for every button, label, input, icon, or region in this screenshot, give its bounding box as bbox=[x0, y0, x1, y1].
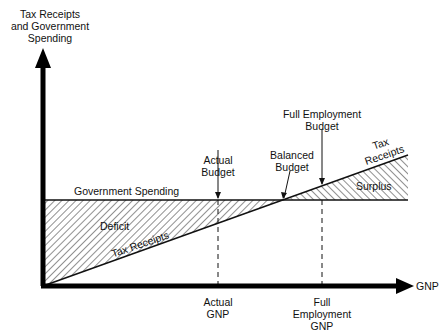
full-emp-budget-label: Full Employment Budget bbox=[280, 108, 364, 132]
actual-budget-label: Actual Budget bbox=[196, 154, 240, 178]
deficit-label: Deficit bbox=[100, 220, 129, 232]
actual-gnp-label: Actual GNP bbox=[198, 296, 238, 320]
full-emp-gnp-label: Full Employment GNP bbox=[290, 296, 354, 332]
gov-spending-label: Government Spending bbox=[74, 185, 179, 197]
surplus-label: Surplus bbox=[356, 180, 392, 192]
y-axis-label: Tax Receipts and Government Spending bbox=[2, 8, 98, 44]
x-axis-label: GNP bbox=[416, 280, 439, 292]
balanced-budget-label: Balanced Budget bbox=[264, 149, 320, 173]
x-axis-arrow-icon bbox=[396, 278, 414, 294]
y-axis-arrow-icon bbox=[35, 48, 51, 68]
